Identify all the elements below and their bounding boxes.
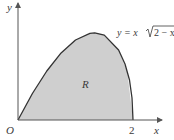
x-axis-label: x [153,124,159,136]
y-axis-label: y [6,1,12,13]
curve-equation-radicand: 2 − x [154,27,174,38]
region-r [18,33,133,120]
origin-label: O [6,124,14,136]
x-tick-2: 2 [129,124,135,136]
region-label: R [81,78,89,90]
diagram: y x O 2 R y = x 2 − x [0,0,174,140]
curve-equation-lhs: y = x [116,27,138,38]
